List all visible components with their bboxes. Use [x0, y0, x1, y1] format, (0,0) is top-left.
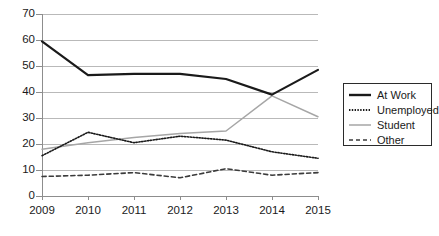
legend-item-unemployed: Unemployed — [344, 102, 431, 117]
legend-label-at-work: At Work — [377, 89, 416, 101]
legend-item-other: Other — [344, 132, 431, 147]
legend-swatch-other-icon — [348, 134, 372, 146]
series-line-at-work — [42, 41, 318, 94]
series-line-unemployed — [42, 132, 318, 158]
legend: At Work Unemployed Student Other — [343, 83, 432, 146]
legend-swatch-at-work-icon — [348, 89, 372, 101]
legend-label-student: Student — [377, 119, 415, 131]
legend-item-student: Student — [344, 117, 431, 132]
legend-swatch-student-icon — [348, 119, 372, 131]
series-line-student — [42, 96, 318, 149]
legend-item-at-work: At Work — [344, 87, 431, 102]
series-line-other — [42, 169, 318, 178]
legend-label-unemployed: Unemployed — [377, 104, 439, 116]
legend-label-other: Other — [377, 134, 405, 146]
legend-swatch-unemployed-icon — [348, 104, 372, 116]
